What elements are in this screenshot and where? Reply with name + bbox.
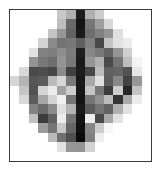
- figure-root: [0, 0, 162, 172]
- image-frame: [9, 9, 152, 162]
- pixelated-image-canvas: [10, 10, 151, 161]
